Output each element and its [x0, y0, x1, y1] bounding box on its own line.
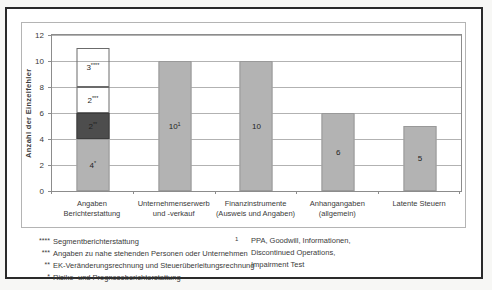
x-ticks	[51, 191, 462, 195]
footnote-text: Angaben zu nahe stehenden Personen oder …	[53, 248, 248, 260]
category-label-line: Berichterstattung	[51, 209, 133, 219]
x-tick-mark	[459, 191, 460, 194]
category-label: Unternehmenserwerbund -verkauf	[133, 199, 215, 218]
bar-value-label: 101	[169, 122, 181, 131]
y-tick-label: 8	[28, 83, 44, 92]
y-tick-label: 4	[28, 135, 44, 144]
bar-value-label: 10	[252, 122, 261, 131]
y-tick-label: 0	[28, 187, 44, 196]
footnote-line: ** EK-Veränderungsrechnung und Steuerübe…	[30, 260, 254, 272]
footnote-line: *** Angaben zu nahe stehenden Personen o…	[30, 248, 254, 260]
category-label-line: (allgemein)	[296, 209, 378, 219]
chart-area: Anzahl der Einzelfehler 024681012 4*2**2…	[21, 22, 466, 228]
bar-slot: 10	[216, 35, 298, 191]
category-label-line: Latente Steuern	[378, 199, 460, 209]
bar: 4*2**2***3****	[76, 48, 109, 191]
x-tick-mark	[133, 191, 134, 194]
category-label: Latente Steuern	[378, 199, 460, 209]
category-label-line: Anhangangaben	[296, 199, 378, 209]
footnote-text: Risiko- und Prognoseberichterstattung	[53, 272, 181, 284]
bar-value-superscript: 1	[178, 121, 181, 127]
bar-slot: 5	[379, 35, 461, 191]
bar-value-superscript: ***	[92, 95, 98, 101]
footnote-line: * Risiko- und Prognoseberichterstattung	[30, 272, 254, 284]
footnote-marker: ****	[30, 235, 50, 247]
footnote-marker: **	[30, 259, 50, 271]
category-label-line: Angaben	[51, 199, 133, 209]
x-tick-mark	[296, 191, 297, 194]
bar: 101	[158, 61, 191, 191]
footnote-superscript: 1	[235, 236, 245, 272]
y-tick-label: 12	[28, 31, 44, 40]
bar-value-superscript: ****	[91, 62, 100, 68]
footnote-marker: ***	[30, 247, 50, 259]
footnote-right-line: Impairment Test	[251, 259, 351, 271]
footnote-right-line: Discontinued Operations,	[251, 247, 351, 259]
footnote-text: EK-Veränderungsrechnung und Steuerüberle…	[53, 260, 254, 272]
bar-value-label: 2***	[87, 96, 98, 105]
y-tick-label: 10	[28, 57, 44, 66]
bar-value-label: 2**	[89, 122, 98, 131]
bar-segment: 3****	[76, 48, 109, 87]
category-label-line: und -verkauf	[133, 209, 215, 219]
bar-segment: 2**	[76, 113, 109, 139]
footnote-right-line: PPA, Goodwill, Informationen,	[251, 235, 351, 247]
bar-segment: 2***	[76, 87, 109, 113]
bar-segment: 10	[240, 61, 273, 191]
category-label: AngabenBerichterstattung	[51, 199, 133, 218]
x-tick-mark	[51, 191, 52, 194]
bar-value-label: 5	[418, 154, 422, 163]
y-axis: 024681012	[22, 34, 51, 192]
footnote-marker: *	[30, 271, 50, 283]
plot-area: 4*2**2***3****1011065	[51, 34, 462, 192]
footnote-right: 1 PPA, Goodwill, Informationen, Disconti…	[235, 235, 351, 271]
bar: 10	[240, 61, 273, 191]
bar-value-superscript: **	[93, 121, 97, 127]
bar-value-label: 3****	[86, 63, 99, 72]
footnote-line: **** Segmentberichterstattung	[30, 236, 254, 248]
y-tick-label: 2	[28, 161, 44, 170]
bar: 6	[322, 113, 355, 191]
footnotes-left: **** Segmentberichterstattung *** Angabe…	[30, 236, 254, 284]
bar-value-label: 6	[336, 148, 340, 157]
category-label: Anhangangaben(allgemein)	[296, 199, 378, 218]
bar-segment: 5	[404, 126, 437, 191]
bar-value-label: 4*	[90, 161, 97, 170]
footnote-right-text: PPA, Goodwill, Informationen, Discontinu…	[251, 235, 351, 271]
category-label-line: (Ausweis und Angaben)	[215, 209, 297, 219]
bar: 5	[404, 126, 437, 191]
footnote-text: Segmentberichterstattung	[53, 236, 139, 248]
x-tick-mark	[378, 191, 379, 194]
bar-segment: 101	[158, 61, 191, 191]
bar-slot: 6	[297, 35, 379, 191]
bar-segment: 4*	[76, 139, 109, 191]
bar-segment: 6	[322, 113, 355, 191]
figure-frame: Anzahl der Einzelfehler 024681012 4*2**2…	[5, 7, 483, 279]
category-label-line: Unternehmenserwerb	[133, 199, 215, 209]
y-tick-label: 6	[28, 109, 44, 118]
bar-slot: 101	[134, 35, 216, 191]
bar-slot: 4*2**2***3****	[52, 35, 134, 191]
bar-value-superscript: *	[94, 160, 96, 166]
x-tick-mark	[215, 191, 216, 194]
category-label-line: Finanzinstrumente	[215, 199, 297, 209]
category-label: Finanzinstrumente(Ausweis und Angaben)	[215, 199, 297, 218]
